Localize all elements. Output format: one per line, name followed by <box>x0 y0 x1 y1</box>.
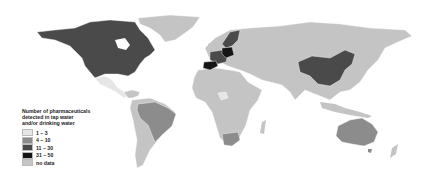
legend-item: 11 – 30 <box>22 144 104 152</box>
legend: Number of pharmaceuticals detected in ta… <box>22 108 104 167</box>
region-madagascar <box>260 120 266 134</box>
legend-item: 31 – 50 <box>22 152 104 160</box>
legend-swatch <box>22 144 33 151</box>
region-tasmania <box>368 149 372 153</box>
region-north-america <box>37 20 155 78</box>
legend-title: Number of pharmaceuticals detected in ta… <box>22 108 104 126</box>
legend-label: 11 – 30 <box>36 145 53 151</box>
legend-label: 1 – 3 <box>36 130 48 136</box>
region-south-africa <box>222 132 240 146</box>
region-indonesia <box>320 102 372 118</box>
legend-label: no data <box>36 160 54 166</box>
legend-label: 4 – 10 <box>36 137 50 143</box>
legend-item: 1 – 3 <box>22 129 104 137</box>
legend-swatch <box>22 129 33 136</box>
region-new-zealand <box>390 144 398 158</box>
legend-item: 4 – 10 <box>22 137 104 145</box>
region-uk <box>208 42 214 51</box>
legend-label: 31 – 50 <box>36 152 53 158</box>
legend-swatch <box>22 159 33 166</box>
region-australia <box>336 118 378 146</box>
legend-swatch <box>22 137 33 144</box>
legend-item: no data <box>22 159 104 167</box>
legend-swatch <box>22 152 33 159</box>
region-mexico <box>95 76 128 98</box>
legend-title-line: and/or drinking water <box>22 120 104 126</box>
